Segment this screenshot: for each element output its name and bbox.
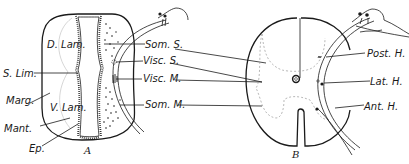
spinal-cord-diagram: D. Lam. S. Lim. Marg. V. Lam. Mant. Ep. …: [0, 0, 409, 164]
label-dorsal-lamina: D. Lam.: [47, 39, 86, 50]
neural-tube-outline: [42, 14, 135, 140]
label-marginal-layer: Marg.: [6, 95, 34, 106]
dorsal-root-b: [318, 18, 370, 150]
label-somatic-sensory: Som. S.: [145, 39, 183, 50]
central-canal: [78, 17, 101, 137]
ganglion-cell-3: [358, 12, 362, 16]
caption-b: B: [291, 149, 299, 160]
label-posterior-horn: Post. H.: [367, 48, 405, 59]
ependymal-lining: [76, 16, 79, 137]
ependymal-lining-right: [99, 16, 103, 137]
caption-a: A: [83, 145, 91, 156]
label-sulcus-limitans: S. Lim.: [3, 68, 37, 79]
label-lateral-horn: Lat. H.: [370, 76, 403, 87]
label-visceral-motor: Visc. M.: [143, 73, 182, 84]
label-anterior-horn: Ant. H.: [363, 101, 398, 112]
label-ependyma: Ep.: [29, 143, 45, 154]
label-visceral-sensory: Visc. S.: [143, 55, 179, 66]
ganglion-cell-1: [158, 12, 161, 15]
diagram-svg: D. Lam. S. Lim. Marg. V. Lam. Mant. Ep. …: [0, 0, 409, 164]
ganglion-cell-4: [365, 13, 369, 17]
label-ventral-lamina: V. Lam.: [50, 102, 87, 113]
anterior-horn-cell: [315, 107, 318, 110]
central-canal-b: [293, 76, 300, 83]
lateral-horn-cell: [320, 82, 323, 85]
label-mantle-layer: Mant.: [4, 123, 32, 134]
panel-b-spinal-cord: Post. H. Lat. H. Ant. H. B: [246, 9, 409, 160]
panel-a-neural-tube: D. Lam. S. Lim. Marg. V. Lam. Mant. Ep. …: [3, 8, 266, 156]
label-somatic-motor: Som. M.: [145, 99, 185, 110]
posterior-horn-cell: [318, 56, 321, 58]
ganglion-cell-2: [163, 14, 166, 17]
